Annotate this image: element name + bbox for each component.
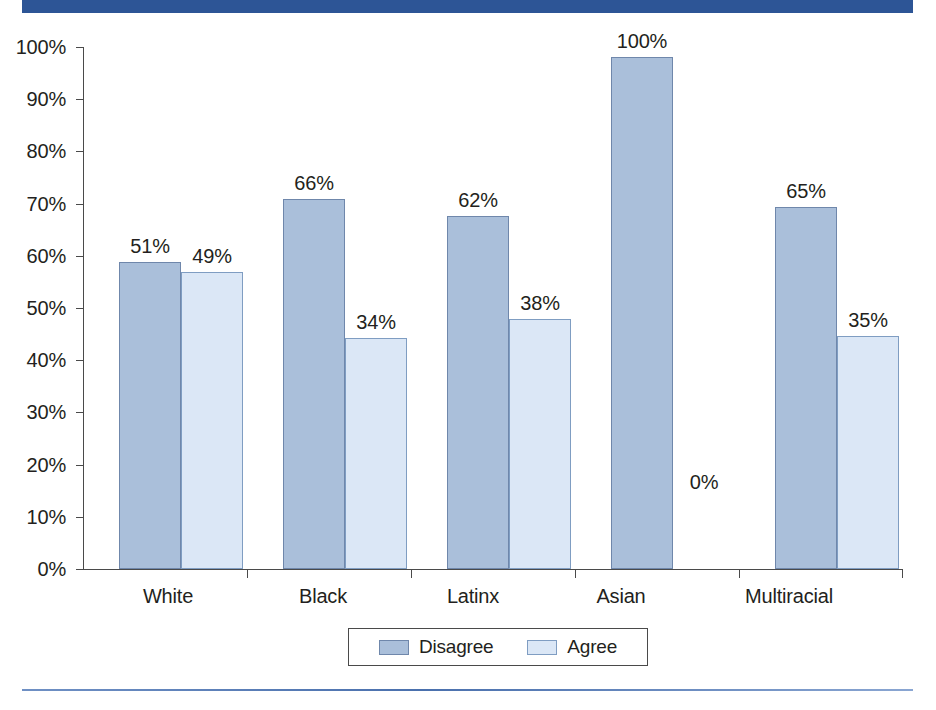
x-tick xyxy=(411,570,412,578)
y-tick: 80% xyxy=(76,151,83,152)
y-tick: 30% xyxy=(76,412,83,413)
bar-agree-black[interactable]: 34% xyxy=(345,338,407,569)
chart-legend: Disagree Agree xyxy=(348,628,648,666)
y-axis-label: 100% xyxy=(16,36,66,59)
bar-value-label: 66% xyxy=(294,172,333,195)
y-tick: 60% xyxy=(76,256,83,257)
bar-disagree-latinx[interactable]: 62% xyxy=(447,216,509,569)
x-axis-category-label: Multiracial xyxy=(745,585,833,608)
bar-value-label: 51% xyxy=(130,235,169,258)
legend-swatch-icon xyxy=(527,640,557,655)
bar-value-label: 35% xyxy=(848,309,887,332)
bar-value-label: 100% xyxy=(617,30,667,53)
legend-label: Agree xyxy=(567,636,617,658)
x-tick xyxy=(575,570,576,578)
y-tick: 100% xyxy=(76,47,83,48)
bar-disagree-black[interactable]: 66% xyxy=(283,199,345,569)
legend-swatch-icon xyxy=(379,640,409,655)
x-tick xyxy=(247,570,248,578)
x-axis-line xyxy=(83,569,903,570)
x-tick xyxy=(739,570,740,578)
bar-value-label: 65% xyxy=(786,180,825,203)
bar-agree-white[interactable]: 49% xyxy=(181,272,243,569)
y-axis-line xyxy=(83,47,84,570)
bar-value-label: 49% xyxy=(192,245,231,268)
y-axis-label: 10% xyxy=(27,505,66,528)
bar-disagree-white[interactable]: 51% xyxy=(119,262,181,569)
bar-disagree-multiracial[interactable]: 65% xyxy=(775,207,837,569)
top-accent-rule xyxy=(22,0,913,13)
y-tick: 0% xyxy=(76,569,83,570)
x-tick xyxy=(902,570,903,578)
legend-item-agree[interactable]: Agree xyxy=(527,636,617,658)
plot-area: 100% 90% 80% 70% 60% 50% 40% 30% 20% 10% xyxy=(83,47,903,570)
bar-value-label: 0% xyxy=(690,471,719,494)
bar-value-label: 38% xyxy=(520,292,559,315)
legend-item-disagree[interactable]: Disagree xyxy=(379,636,493,658)
x-axis-category-label: Latinx xyxy=(447,585,499,608)
y-tick: 50% xyxy=(76,308,83,309)
x-axis-category-label: Asian xyxy=(596,585,645,608)
y-tick: 40% xyxy=(76,360,83,361)
y-tick: 70% xyxy=(76,204,83,205)
bar-value-label: 34% xyxy=(356,311,395,334)
bar-value-label: 62% xyxy=(458,189,497,212)
y-axis-label: 30% xyxy=(27,401,66,424)
y-axis-label: 40% xyxy=(27,349,66,372)
y-tick: 90% xyxy=(76,99,83,100)
y-axis-label: 50% xyxy=(27,297,66,320)
bottom-accent-rule xyxy=(22,689,913,691)
chart-figure: 100% 90% 80% 70% 60% 50% 40% 30% 20% 10% xyxy=(0,0,936,710)
y-tick: 20% xyxy=(76,465,83,466)
bar-agree-latinx[interactable]: 38% xyxy=(509,319,571,569)
bar-disagree-asian[interactable]: 100% xyxy=(611,57,673,569)
y-axis-label: 70% xyxy=(27,192,66,215)
y-axis-label: 80% xyxy=(27,140,66,163)
legend-label: Disagree xyxy=(419,636,493,658)
y-axis-label: 90% xyxy=(27,88,66,111)
bar-agree-multiracial[interactable]: 35% xyxy=(837,336,899,569)
x-axis-category-label: White xyxy=(143,585,193,608)
y-axis-label: 60% xyxy=(27,244,66,267)
y-axis-label: 0% xyxy=(37,558,66,581)
x-axis-category-label: Black xyxy=(299,585,347,608)
y-tick: 10% xyxy=(76,517,83,518)
y-axis-label: 20% xyxy=(27,453,66,476)
